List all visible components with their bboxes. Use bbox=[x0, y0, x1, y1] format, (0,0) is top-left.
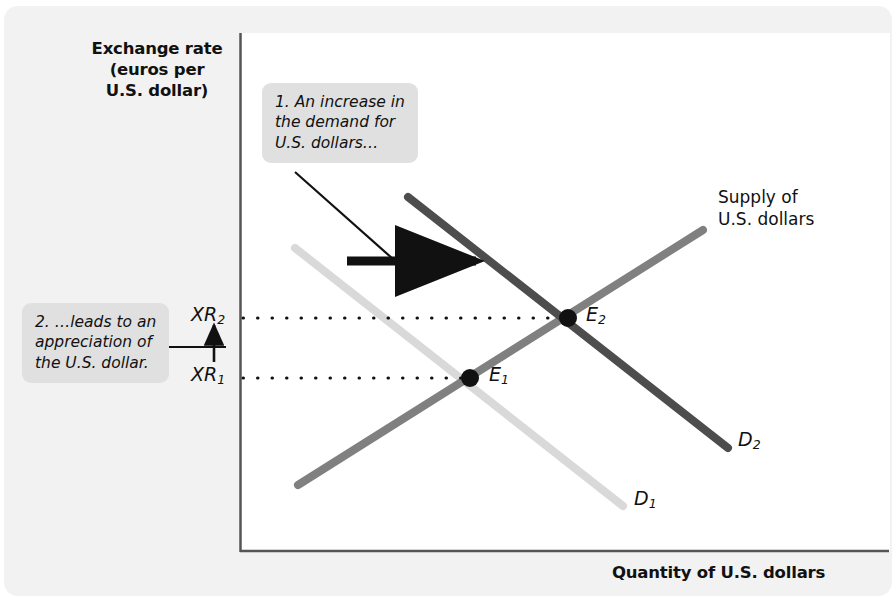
equilibrium-1-label: E1 bbox=[489, 363, 509, 387]
d1-subscript: 1 bbox=[649, 496, 657, 511]
equilibrium-point-1 bbox=[461, 369, 479, 387]
demand-curve-1-label: D1 bbox=[634, 487, 657, 511]
y-axis-title: Exchange rate (euros per U.S. dollar) bbox=[84, 38, 230, 101]
d2-subscript: 2 bbox=[753, 437, 761, 452]
xr2-subscript: 2 bbox=[217, 312, 225, 327]
xr1-subscript: 1 bbox=[217, 372, 225, 387]
callout-1-leader-line bbox=[295, 172, 393, 259]
x-axis-title: Quantity of U.S. dollars bbox=[612, 562, 825, 583]
e2-letter: E bbox=[586, 303, 598, 325]
d2-letter: D bbox=[738, 428, 753, 450]
figure-container: Exchange rate (euros per U.S. dollar) Qu… bbox=[0, 0, 896, 615]
demand-curve-2-label: D2 bbox=[738, 428, 761, 452]
supply-curve-label: Supply of U.S. dollars bbox=[718, 186, 814, 230]
xr1-letters: XR bbox=[191, 363, 217, 385]
xr2-tick-label: XR2 bbox=[191, 303, 225, 327]
e1-subscript: 1 bbox=[501, 372, 509, 387]
equilibrium-point-2 bbox=[559, 309, 577, 327]
xr1-tick-label: XR1 bbox=[191, 363, 225, 387]
e2-subscript: 2 bbox=[598, 312, 606, 327]
callout-appreciation: 2. …leads to an appreciation of the U.S.… bbox=[22, 303, 169, 383]
e1-letter: E bbox=[489, 363, 501, 385]
xr2-letters: XR bbox=[191, 303, 217, 325]
d1-letter: D bbox=[634, 487, 649, 509]
equilibrium-2-label: E2 bbox=[586, 303, 606, 327]
callout-demand-increase: 1. An increase in the demand for U.S. do… bbox=[262, 83, 418, 163]
